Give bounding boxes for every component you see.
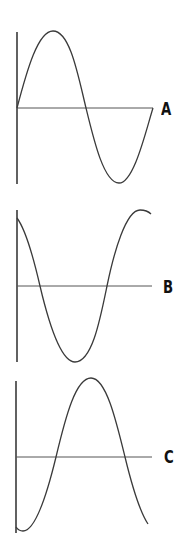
panel-a-label: A xyxy=(161,99,171,119)
panel-b xyxy=(17,210,152,362)
panel-c xyxy=(16,378,152,533)
panel-c-neg-cosine-curve xyxy=(16,378,148,531)
waveform-diagram xyxy=(0,0,189,559)
panel-a-sine-curve xyxy=(17,31,153,183)
panel-b-label: B xyxy=(163,277,173,297)
panel-c-label: C xyxy=(164,447,174,467)
panel-a xyxy=(17,31,153,184)
